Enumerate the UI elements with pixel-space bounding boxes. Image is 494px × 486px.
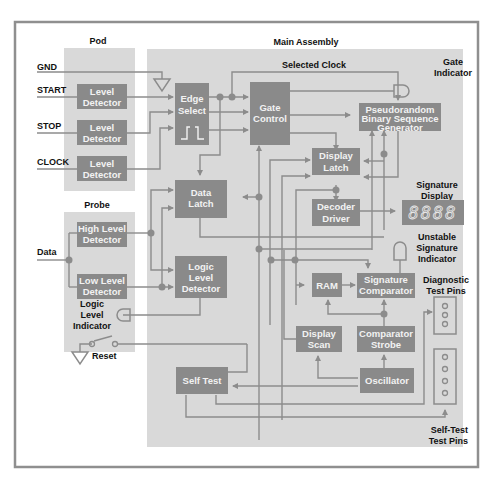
display-latch-block: Display Latch [312,148,360,175]
logic-level-indicator-label: Logic [80,299,104,309]
signature-display: 8888 [402,200,464,225]
signature-display-label: Signature [416,180,458,190]
svg-text:RAM: RAM [316,280,338,291]
edge-select-block: Edge Select [175,83,209,145]
unstable-indicator-label: Unstable [418,232,456,242]
svg-text:Latch: Latch [188,198,214,209]
level-detector-stop: Level Detector [77,120,127,145]
decoder-driver-block: Decoder Driver [312,199,360,226]
svg-text:Detector: Detector [83,133,122,144]
level-detector-clock: Level Detector [77,156,127,181]
svg-text:Logic: Logic [188,261,213,272]
svg-text:Oscillator: Oscillator [365,375,409,386]
high-level-detector-block: High Level Detector [77,222,127,247]
svg-text:Level: Level [90,86,114,97]
svg-text:Display: Display [319,150,354,161]
svg-text:Level: Level [90,158,114,169]
svg-text:Self Test: Self Test [183,375,223,386]
self-test-block: Self Test [176,367,228,394]
svg-text:Test Pins: Test Pins [429,436,468,446]
display-scan-block: Display Scan [296,326,342,352]
svg-text:Edge: Edge [180,93,203,104]
svg-text:Detector: Detector [83,97,122,108]
signature-digits: 8888 [409,203,458,223]
svg-text:Display: Display [421,191,453,201]
main-assembly-title: Main Assembly [273,37,338,47]
svg-text:Scan: Scan [308,339,331,350]
oscillator-block: Oscillator [360,368,414,393]
svg-text:Detector: Detector [182,283,221,294]
svg-text:Data: Data [191,187,212,198]
svg-text:Comparator: Comparator [359,328,413,339]
svg-text:Signature: Signature [364,274,408,285]
svg-text:Level: Level [189,272,213,283]
svg-text:Driver: Driver [322,213,350,224]
svg-text:Display: Display [302,328,337,339]
gate-indicator-label: Gate [443,57,463,67]
low-level-detector-block: Low Level Detector [77,274,127,299]
block-diagram: Pod Main Assembly Probe GND START STOP C… [0,0,494,486]
svg-text:Strobe: Strobe [371,339,401,350]
data-latch-block: Data Latch [175,180,227,218]
svg-text:Select: Select [178,105,207,116]
reset-label: Reset [92,351,117,361]
svg-text:Generator: Generator [377,122,423,133]
svg-text:Signature: Signature [416,243,458,253]
gnd-label: GND [37,62,58,72]
start-label: START [37,85,67,95]
selected-clock-label: Selected Clock [282,60,347,70]
prbs-generator-block: Pseudorandom Binary Sequence Generator [359,103,441,133]
ram-block: RAM [312,273,342,297]
svg-text:Gate: Gate [259,102,280,113]
svg-text:High Level: High Level [78,223,126,234]
svg-text:Indicator: Indicator [73,321,112,331]
logic-level-detector-block: Logic Level Detector [175,256,227,298]
data-label: Data [37,247,58,257]
svg-text:Test Pins: Test Pins [426,286,465,296]
svg-text:Detector: Detector [83,169,122,180]
probe-title: Probe [84,200,110,210]
svg-text:Indicator: Indicator [418,254,457,264]
diagnostic-pins-label: Diagnostic [423,275,469,285]
signature-comparator-block: Signature Comparator [357,273,415,298]
svg-text:Indicator: Indicator [434,68,473,78]
svg-text:Low Level: Low Level [79,275,125,286]
level-detector-start: Level Detector [77,84,127,109]
svg-text:Comparator: Comparator [359,285,413,296]
svg-text:Control: Control [253,113,287,124]
svg-text:Level: Level [90,122,114,133]
svg-text:Detector: Detector [83,234,122,245]
stop-label: STOP [37,121,61,131]
self-test-pins-label: Self-Test [431,425,468,435]
comparator-strobe-block: Comparator Strobe [357,326,415,352]
svg-text:Detector: Detector [83,286,122,297]
clock-label: CLOCK [37,157,69,167]
svg-text:Latch: Latch [323,162,349,173]
pod-title: Pod [90,36,107,46]
svg-text:Decoder: Decoder [317,201,355,212]
gate-control-block: Gate Control [250,82,290,145]
svg-text:Level: Level [80,310,103,320]
